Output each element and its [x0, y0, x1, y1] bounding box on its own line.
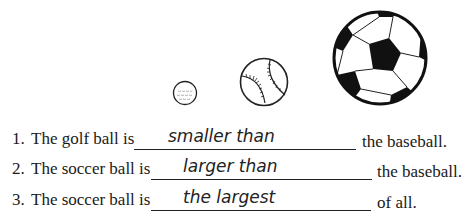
answer-blank[interactable]: the largest — [151, 190, 371, 211]
question-suffix: the baseball. — [362, 132, 447, 152]
question-prefix: The golf ball is — [31, 129, 134, 149]
question-number: 3. — [12, 190, 25, 210]
question-3: 3. The soccer ball is the largest of all… — [0, 190, 467, 212]
answer-blank[interactable]: smaller than — [134, 129, 356, 150]
question-1: 1. The golf ball is smaller than the bas… — [0, 129, 467, 151]
question-prefix: The soccer ball is — [31, 190, 150, 210]
question-suffix: the baseball. — [377, 162, 462, 182]
question-number: 1. — [12, 129, 25, 149]
answer-text: smaller than — [168, 126, 275, 146]
answer-text: larger than — [183, 156, 277, 176]
answer-blank[interactable]: larger than — [151, 159, 372, 180]
baseball-image — [239, 57, 289, 107]
question-prefix: The soccer ball is — [31, 159, 150, 179]
answer-text: the largest — [183, 187, 275, 207]
question-suffix: of all. — [377, 193, 417, 213]
question-2: 2. The soccer ball is larger than the ba… — [0, 159, 467, 181]
soccer-ball-image — [331, 9, 429, 107]
question-number: 2. — [12, 159, 25, 179]
golf-ball-image — [172, 80, 198, 106]
